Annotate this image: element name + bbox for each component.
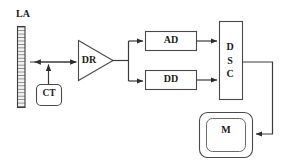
block-label-dd: DD <box>146 74 196 84</box>
connector-dr-branch <box>112 41 143 81</box>
block-label-m: M <box>214 125 238 135</box>
block-label-dr: DR <box>78 55 100 65</box>
block-m[interactable] <box>200 113 253 158</box>
block-la[interactable] <box>18 27 26 108</box>
block-label-la: LA <box>11 9 35 19</box>
block-diagram-canvas: LA CT DR AD DD D S C M <box>0 0 283 165</box>
block-label-ct: CT <box>38 89 60 99</box>
diagram-vector-layer <box>0 0 283 165</box>
block-label-dsc: D S C <box>220 40 240 81</box>
block-label-ad: AD <box>146 35 196 45</box>
